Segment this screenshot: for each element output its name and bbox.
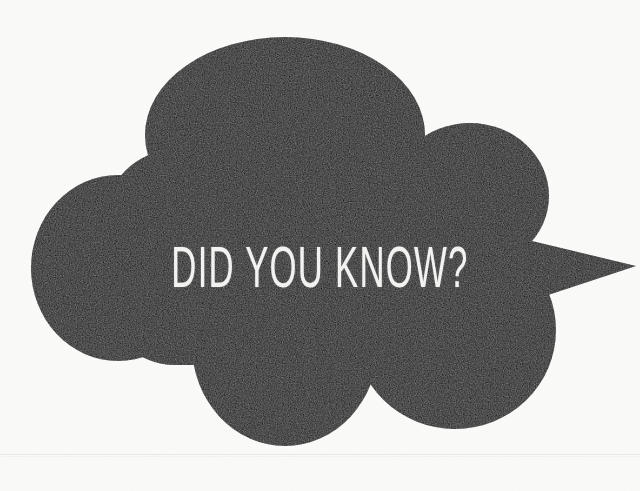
image-canvas: DID YOU KNOW?	[0, 0, 640, 491]
headline-text: DID YOU KNOW?	[128, 238, 512, 296]
